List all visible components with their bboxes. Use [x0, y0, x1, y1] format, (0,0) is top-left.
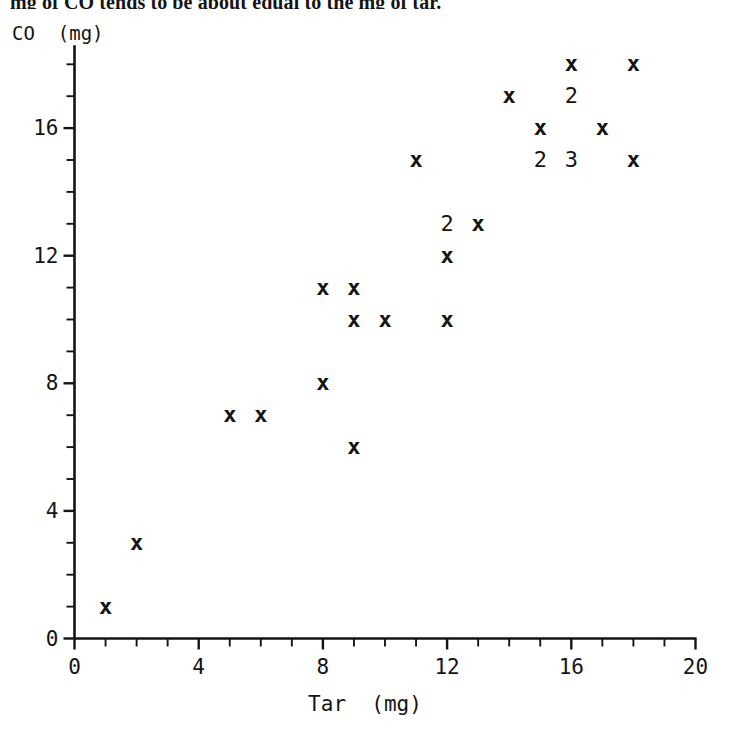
y-tick-label: 8	[15, 371, 59, 395]
data-point-marker: x	[434, 243, 460, 269]
data-point-marker: x	[372, 307, 398, 333]
data-point-marker: x	[341, 434, 367, 460]
data-point-marker: x	[341, 307, 367, 333]
y-tick-label: 12	[15, 244, 59, 268]
x-tick-label: 0	[55, 655, 95, 679]
data-point-marker: x	[217, 402, 243, 428]
data-point-marker: x	[341, 275, 367, 301]
x-tick-label: 4	[179, 655, 219, 679]
data-point-marker: x	[465, 211, 491, 237]
data-point-marker: x	[93, 594, 119, 620]
x-tick-label: 12	[427, 655, 467, 679]
y-tick-label: 4	[15, 499, 59, 523]
data-point-marker: x	[589, 115, 615, 141]
data-point-marker: x	[403, 147, 429, 173]
data-point-marker: x	[310, 370, 336, 396]
data-point-count-marker: 3	[558, 147, 584, 173]
data-point-marker: x	[124, 530, 150, 556]
data-point-marker: x	[248, 402, 274, 428]
data-point-count-marker: 2	[434, 211, 460, 237]
y-axis-title: CO (mg)	[12, 22, 104, 44]
x-axis-title: Tar (mg)	[0, 692, 730, 716]
data-point-marker: x	[558, 51, 584, 77]
data-point-marker: x	[496, 83, 522, 109]
data-point-marker: x	[434, 307, 460, 333]
x-tick-label: 20	[676, 655, 716, 679]
data-point-marker: x	[620, 147, 646, 173]
data-point-count-marker: 2	[527, 147, 553, 173]
x-tick-label: 8	[303, 655, 343, 679]
data-point-marker: x	[620, 51, 646, 77]
x-tick-label: 16	[551, 655, 591, 679]
scatter-plot: CO (mg) Tar (mg) 0481216 048121620 xxxxx…	[0, 0, 730, 738]
data-point-marker: x	[310, 275, 336, 301]
data-point-count-marker: 2	[558, 83, 584, 109]
data-point-marker: x	[527, 115, 553, 141]
plot-axes-svg	[0, 0, 730, 738]
y-tick-label: 16	[15, 116, 59, 140]
y-tick-label: 0	[15, 627, 59, 651]
